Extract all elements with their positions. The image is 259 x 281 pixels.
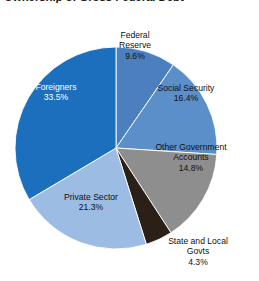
pie-slice-group	[15, 47, 217, 249]
pie-chart-figure: Ownership of Gross Federal Debt Federal …	[0, 0, 259, 281]
pie-chart-svg	[0, 0, 259, 281]
